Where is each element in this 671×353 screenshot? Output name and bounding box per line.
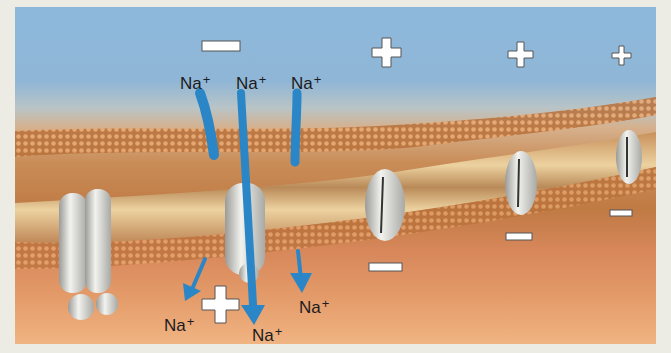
plus-sign-outside-2 — [507, 41, 535, 69]
membrane-illustration: Na+ Na+ Na+ Na+ Na+ Na+ — [15, 7, 656, 344]
na-ion-label-inside-1: Na+ — [164, 315, 194, 334]
plus-sign-inside — [201, 285, 241, 325]
minus-sign-inside-2 — [505, 232, 535, 242]
minus-sign-outside — [201, 40, 241, 54]
minus-sign-inside-3 — [609, 209, 635, 217]
minus-sign-inside-1 — [368, 262, 404, 274]
closed-sodium-channel-3 — [616, 130, 642, 184]
na-ion-label-outside-1: Na+ — [180, 73, 210, 92]
plus-sign-outside-1 — [371, 37, 403, 69]
na-ion-label-inside-2: Na+ — [252, 325, 282, 344]
plus-sign-outside-3 — [611, 45, 633, 67]
closed-sodium-channel-2 — [505, 151, 537, 215]
ion-pump-protein — [59, 189, 118, 320]
membrane-scene — [15, 7, 656, 344]
na-ion-label-inside-3: Na+ — [299, 297, 329, 316]
closed-sodium-channel-1 — [365, 169, 405, 241]
na-ion-label-outside-3: Na+ — [291, 73, 321, 92]
na-ion-label-outside-2: Na+ — [236, 73, 266, 92]
